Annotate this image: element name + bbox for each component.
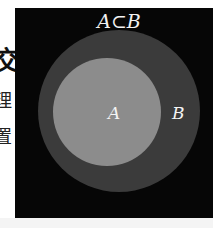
set-a-label: A <box>108 103 120 123</box>
set-a-circle <box>53 58 161 166</box>
clipped-side-text: 交 理 置 <box>0 38 12 148</box>
diagram-title: A⊂B <box>15 10 213 32</box>
side-char-1: 交 <box>0 46 12 76</box>
bottom-margin <box>0 218 213 228</box>
side-char-2: 理 <box>0 90 12 112</box>
side-char-3: 置 <box>0 126 12 148</box>
set-b-label: B <box>172 103 185 123</box>
venn-diagram-panel: A⊂B A B <box>15 8 213 218</box>
